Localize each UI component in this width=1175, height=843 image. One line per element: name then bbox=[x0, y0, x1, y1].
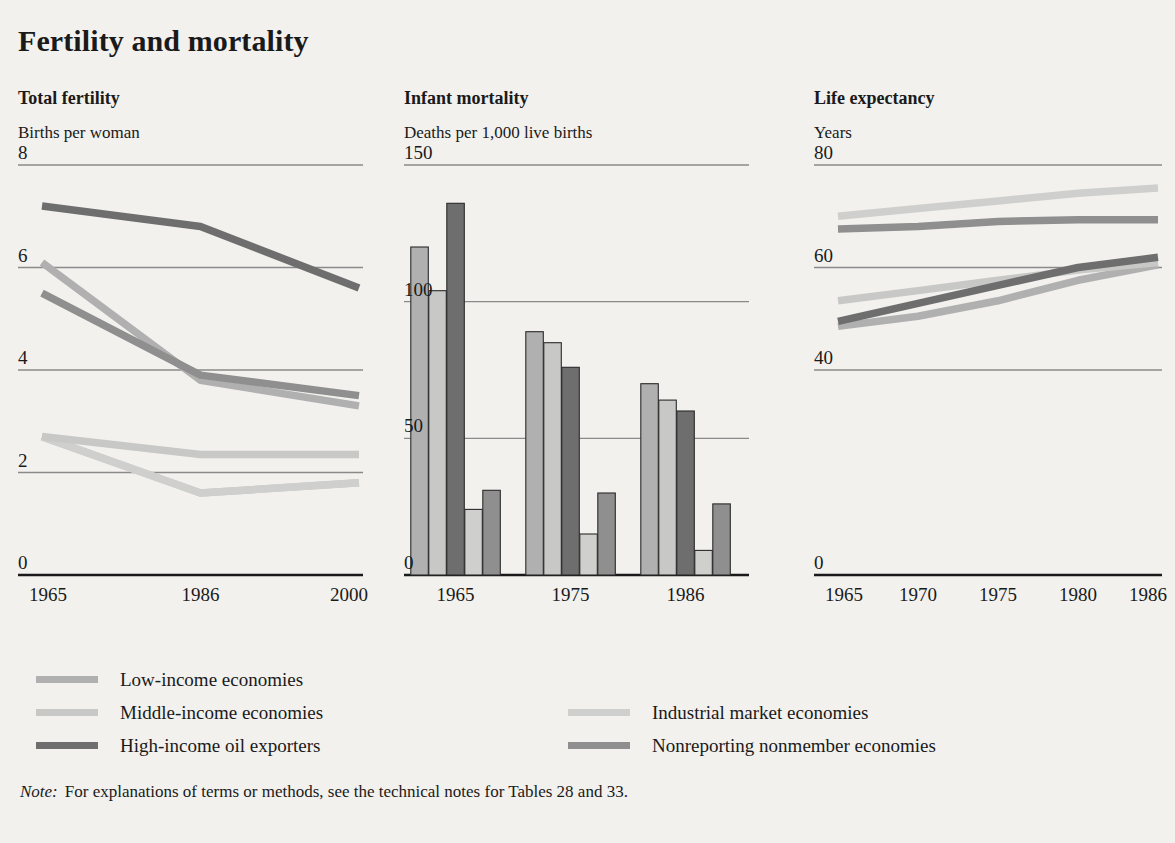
y-tick-label: 0 bbox=[404, 553, 414, 572]
x-tick-label: 1986 bbox=[1129, 585, 1167, 604]
y-tick-label: 60 bbox=[814, 246, 833, 265]
y-tick-label: 80 bbox=[814, 143, 833, 162]
bar bbox=[695, 550, 713, 575]
y-tick-label: 50 bbox=[404, 416, 423, 435]
series-line bbox=[838, 188, 1158, 216]
bar bbox=[483, 490, 501, 575]
bar bbox=[580, 534, 598, 575]
legend-swatch bbox=[568, 742, 630, 749]
x-tick-label: 1980 bbox=[1059, 585, 1097, 604]
legend-label: Middle-income economies bbox=[120, 702, 323, 724]
panel-title-infant-mortality: Infant mortality bbox=[404, 88, 749, 109]
legend-item: High-income oil exporters bbox=[36, 729, 323, 762]
footnote-label: Note: bbox=[20, 782, 58, 801]
y-tick-label: 6 bbox=[18, 246, 28, 265]
x-tick-label: 1975 bbox=[552, 585, 590, 604]
bar bbox=[562, 367, 580, 575]
x-tick-label: 1970 bbox=[899, 585, 937, 604]
legend-left-column: Low-income economiesMiddle-income econom… bbox=[36, 663, 323, 762]
chart-canvas-0 bbox=[18, 147, 363, 577]
bar bbox=[526, 332, 544, 575]
bar bbox=[659, 400, 677, 575]
legend-swatch bbox=[36, 742, 98, 749]
y-tick-label: 40 bbox=[814, 348, 833, 367]
x-tick-label: 1965 bbox=[437, 585, 475, 604]
x-tick-label: 1975 bbox=[979, 585, 1017, 604]
legend-label: High-income oil exporters bbox=[120, 735, 321, 757]
panel-life-expectancy: Life expectancy Years 196519701975198019… bbox=[814, 88, 1162, 609]
legend-label: Low-income economies bbox=[120, 669, 303, 691]
legend-item: Middle-income economies bbox=[36, 696, 323, 729]
x-tick-label: 1986 bbox=[182, 585, 220, 604]
bar bbox=[598, 493, 616, 575]
panel-infant-mortality: Infant mortality Deaths per 1,000 live b… bbox=[404, 88, 749, 609]
x-tick-label: 1965 bbox=[825, 585, 863, 604]
y-tick-label: 4 bbox=[18, 348, 28, 367]
chart-canvas-2 bbox=[814, 147, 1162, 577]
bar bbox=[641, 384, 659, 575]
legend-item: Low-income economies bbox=[36, 663, 323, 696]
chart-life-expectancy: 196519701975198019860406080 bbox=[814, 147, 1162, 609]
footnote: Note:For explanations of terms or method… bbox=[20, 782, 628, 802]
bar bbox=[677, 411, 695, 575]
panel-unit-life-expectancy: Years bbox=[814, 109, 1162, 143]
panel-title-total-fertility: Total fertility bbox=[18, 88, 363, 109]
footnote-text: For explanations of terms or methods, se… bbox=[65, 782, 628, 801]
panel-total-fertility: Total fertility Births per woman 1965198… bbox=[18, 88, 363, 609]
legend-right-column: Industrial market economiesNonreporting … bbox=[568, 696, 936, 762]
y-tick-label: 100 bbox=[404, 280, 433, 299]
y-tick-label: 0 bbox=[18, 553, 28, 572]
panel-unit-infant-mortality: Deaths per 1,000 live births bbox=[404, 109, 749, 143]
bar bbox=[544, 343, 562, 575]
y-tick-label: 0 bbox=[814, 553, 824, 572]
legend-swatch bbox=[36, 709, 98, 716]
chart-total-fertility: 19651986200002468 bbox=[18, 147, 363, 609]
bar bbox=[447, 203, 465, 575]
panel-unit-total-fertility: Births per woman bbox=[18, 109, 363, 143]
y-tick-label: 2 bbox=[18, 451, 28, 470]
bar bbox=[465, 509, 483, 575]
series-line bbox=[838, 220, 1158, 229]
legend-label: Industrial market economies bbox=[652, 702, 868, 724]
chart-infant-mortality: 196519751986050100150 bbox=[404, 147, 749, 609]
x-tick-label: 1986 bbox=[667, 585, 705, 604]
y-tick-label: 8 bbox=[18, 143, 28, 162]
legend-label: Nonreporting nonmember economies bbox=[652, 735, 936, 757]
page-title: Fertility and mortality bbox=[18, 24, 309, 58]
bar bbox=[429, 291, 447, 575]
x-tick-label: 2000 bbox=[330, 585, 368, 604]
series-line bbox=[42, 206, 359, 288]
chart-canvas-1 bbox=[404, 147, 749, 577]
legend-swatch bbox=[568, 709, 630, 716]
x-tick-label: 1965 bbox=[29, 585, 67, 604]
series-line bbox=[42, 262, 359, 406]
legend-item: Industrial market economies bbox=[568, 696, 936, 729]
legend-item: Nonreporting nonmember economies bbox=[568, 729, 936, 762]
legend-swatch bbox=[36, 676, 98, 683]
bar bbox=[713, 504, 731, 575]
panel-title-life-expectancy: Life expectancy bbox=[814, 88, 1162, 109]
y-tick-label: 150 bbox=[404, 143, 433, 162]
